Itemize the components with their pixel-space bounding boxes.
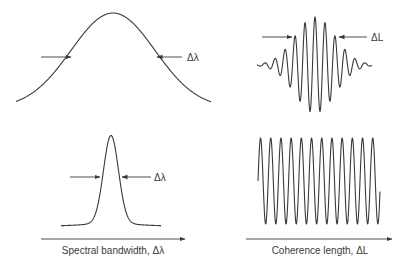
delta-lambda-label: Δλ	[187, 52, 199, 63]
broad-spectrum-panel: Δλ	[16, 13, 211, 102]
coherence-diagram: Δλ ΔL Δλ Spectral bandwidth, Δλ Coherenc…	[0, 0, 402, 265]
continuous-wave-panel: Coherence length, ΔL	[246, 138, 392, 256]
delta-lambda-label: Δλ	[154, 172, 166, 183]
narrow-peak-curve	[61, 136, 161, 226]
continuous-sine-curve	[258, 138, 380, 224]
delta-l-label: ΔL	[371, 32, 384, 43]
wave-packet-curve	[257, 17, 372, 112]
narrow-spectrum-panel: Δλ Spectral bandwidth, Δλ	[41, 136, 185, 257]
spectral-bandwidth-axis-label: Spectral bandwidth, Δλ	[62, 245, 164, 256]
wave-packet-panel: ΔL	[257, 17, 384, 112]
coherence-length-axis-label: Coherence length, ΔL	[272, 245, 369, 256]
